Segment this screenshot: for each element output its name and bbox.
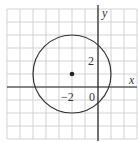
- coordinate-figure: y x 2 −2 0: [0, 0, 138, 142]
- center-point: [70, 72, 75, 77]
- x-axis-label: x: [128, 73, 135, 87]
- origin-label: 0: [89, 90, 95, 104]
- tick-label-y-2: 2: [88, 54, 94, 68]
- y-axis-label: y: [101, 6, 108, 20]
- tick-label-x-neg2: −2: [61, 90, 74, 104]
